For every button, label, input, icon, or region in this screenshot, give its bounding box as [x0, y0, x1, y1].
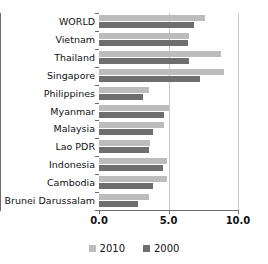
- bar-2000: [99, 201, 138, 207]
- bar-group: [99, 103, 238, 121]
- gridline: [238, 13, 239, 210]
- legend-label: 2010: [100, 243, 125, 254]
- category-label: Myanmar: [0, 107, 95, 117]
- category-label: Philippines: [0, 89, 95, 99]
- y-tickmark: [95, 210, 99, 211]
- category-label: Indonesia: [0, 160, 95, 170]
- bar-group: [99, 67, 238, 85]
- bar-2010: [99, 176, 167, 182]
- legend-label: 2000: [154, 243, 179, 254]
- bar-chart: WORLDVietnamThailandSingaporePhilippines…: [0, 0, 268, 264]
- category-label: Singapore: [0, 71, 95, 81]
- bar-2010: [99, 105, 169, 111]
- bar-2000: [99, 147, 149, 153]
- bar-2010: [99, 33, 189, 39]
- chart-legend: 20102000: [0, 240, 268, 256]
- plot-area: [99, 13, 238, 210]
- bar-2000: [99, 22, 194, 28]
- bar-2010: [99, 51, 221, 57]
- x-axis-labels: 0.05.010.0: [0, 215, 268, 229]
- category-label: WORLD: [0, 17, 95, 27]
- bar-2010: [99, 122, 164, 128]
- x-tick-label: 10.0: [226, 215, 251, 227]
- bar-group: [99, 13, 238, 31]
- category-label: Thailand: [0, 53, 95, 63]
- bar-group: [99, 31, 238, 49]
- bar-2010: [99, 194, 149, 200]
- x-tick-label: 0.0: [90, 215, 108, 227]
- bar-group: [99, 156, 238, 174]
- bar-2000: [99, 76, 200, 82]
- bar-2000: [99, 129, 153, 135]
- category-label: Cambodia: [0, 178, 95, 188]
- category-label: Brunei Darussalam: [0, 196, 95, 206]
- bar-group: [99, 138, 238, 156]
- bar-2010: [99, 140, 150, 146]
- x-tickmark: [169, 210, 170, 214]
- legend-swatch-icon: [143, 245, 150, 252]
- bar-2000: [99, 58, 189, 64]
- bar-2010: [99, 87, 149, 93]
- legend-item: 2010: [89, 243, 125, 254]
- bar-group: [99, 120, 238, 138]
- bar-2010: [99, 15, 205, 21]
- bar-group: [99, 192, 238, 210]
- y-axis-labels: WORLDVietnamThailandSingaporePhilippines…: [0, 13, 95, 210]
- category-label: Vietnam: [0, 35, 95, 45]
- legend-item: 2000: [143, 243, 179, 254]
- x-tickmark: [99, 210, 100, 214]
- bar-2000: [99, 112, 164, 118]
- bar-2000: [99, 183, 153, 189]
- bar-2000: [99, 40, 188, 46]
- x-tickmark: [238, 210, 239, 214]
- category-label: Lao PDR: [0, 142, 95, 152]
- bar-group: [99, 85, 238, 103]
- category-label: Malaysia: [0, 124, 95, 134]
- bar-group: [99, 174, 238, 192]
- bar-2000: [99, 94, 143, 100]
- bar-2010: [99, 158, 167, 164]
- x-tick-label: 5.0: [160, 215, 178, 227]
- bar-group: [99, 49, 238, 67]
- bar-2010: [99, 69, 224, 75]
- bar-2000: [99, 165, 163, 171]
- legend-swatch-icon: [89, 245, 96, 252]
